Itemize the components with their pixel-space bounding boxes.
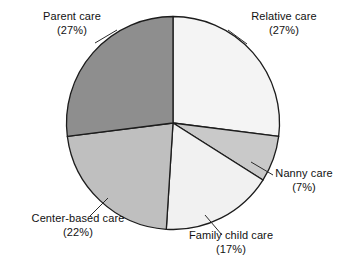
- pie-label-nanny-care-name: Nanny care: [264, 167, 344, 181]
- pie-label-nanny-care-percent: (7%): [264, 181, 344, 195]
- pie-chart-figure: Parent care (27%) Relative care (27%) Na…: [0, 0, 346, 268]
- pie-slices-group: [66, 17, 279, 230]
- pie-label-center-based-care: Center-based care (22%): [8, 212, 148, 239]
- pie-label-center-based-care-percent: (22%): [8, 226, 148, 240]
- pie-label-parent-care-name: Parent care: [24, 10, 120, 24]
- pie-label-nanny-care: Nanny care (7%): [264, 167, 344, 194]
- pie-label-relative-care-name: Relative care: [236, 10, 332, 24]
- pie-label-relative-care-percent: (27%): [236, 24, 332, 38]
- pie-label-family-child-care-name: Family child care: [168, 229, 294, 243]
- pie-label-parent-care-percent: (27%): [24, 24, 120, 38]
- pie-label-family-child-care: Family child care (17%): [168, 229, 294, 256]
- pie-label-relative-care: Relative care (27%): [236, 10, 332, 37]
- pie-label-family-child-care-percent: (17%): [168, 243, 294, 257]
- pie-label-center-based-care-name: Center-based care: [8, 212, 148, 226]
- pie-label-parent-care: Parent care (27%): [24, 10, 120, 37]
